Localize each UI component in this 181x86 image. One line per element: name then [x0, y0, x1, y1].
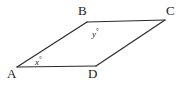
vertex-label-A: A [7, 67, 16, 80]
geometry-figure: B C A D y° x° [0, 0, 181, 86]
edge-AB [17, 22, 87, 67]
angle-label-x: x° [35, 55, 42, 67]
vertex-label-B: B [78, 4, 87, 17]
vertex-label-C: C [166, 4, 175, 17]
edge-CD [96, 20, 165, 66]
degree-symbol-x: ° [39, 55, 42, 63]
degree-symbol-y: ° [96, 27, 99, 35]
angle-label-y: y° [92, 27, 99, 39]
vertex-label-D: D [88, 67, 97, 80]
edge-BC [87, 20, 165, 22]
edge-DA [17, 66, 96, 67]
